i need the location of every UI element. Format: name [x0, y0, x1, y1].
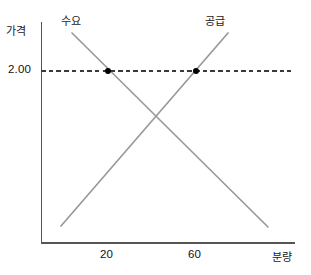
x-axis-tick-label-60: 60 — [188, 248, 201, 260]
y-axis-tick-label-price: 2.00 — [8, 63, 31, 75]
demand-quantity-marker — [105, 68, 111, 74]
x-axis-tick-label-20: 20 — [100, 248, 113, 260]
supply-curve-label: 공급 — [205, 12, 225, 28]
chart-figure: 가격 2.00 20 60 분량 수요 공급 — [0, 0, 311, 275]
x-axis-title: 분량 — [272, 248, 292, 264]
supply-demand-chart — [0, 0, 311, 275]
supply-curve — [61, 33, 228, 226]
demand-curve — [72, 33, 268, 227]
y-axis-title: 가격 — [6, 22, 26, 38]
supply-quantity-marker — [193, 68, 199, 74]
demand-curve-label: 수요 — [61, 12, 81, 28]
